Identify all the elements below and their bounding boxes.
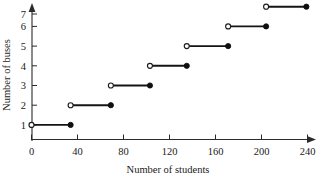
y-axis-ticks [32, 14, 37, 125]
x-tick-label-160: 160 [208, 146, 224, 157]
x-tick-label-240: 240 [300, 146, 316, 157]
step-series-group [29, 4, 309, 127]
step-function-figure: 1 2 3 4 5 6 7 0 [0, 0, 320, 178]
open-endpoint-7 [264, 4, 269, 9]
y-tick-label-2: 2 [21, 100, 26, 111]
x-tick-label-120: 120 [162, 146, 178, 157]
closed-endpoint-3 [147, 83, 152, 88]
chart-canvas: 1 2 3 4 5 6 7 0 [0, 0, 320, 178]
x-tick-label-200: 200 [254, 146, 270, 157]
y-tick-label-3: 3 [21, 80, 26, 91]
open-endpoint-1 [29, 122, 34, 127]
y-tick-labels: 1 2 3 4 5 6 7 [21, 9, 27, 131]
closed-endpoint-2 [108, 103, 113, 108]
x-axis-ticks [32, 135, 308, 140]
y-tick-label-4: 4 [21, 61, 27, 72]
open-endpoint-2 [68, 103, 73, 108]
closed-endpoint-1 [68, 122, 73, 127]
closed-endpoint-6 [264, 24, 269, 29]
y-axis-arrow-icon [29, 3, 36, 12]
closed-endpoint-5 [226, 44, 231, 49]
y-tick-label-7: 7 [21, 9, 26, 20]
closed-endpoint-4 [184, 63, 189, 68]
x-axis-arrow-icon [307, 136, 316, 143]
open-endpoint-6 [226, 24, 231, 29]
y-tick-label-6: 6 [21, 21, 26, 32]
open-endpoint-3 [108, 83, 113, 88]
x-tick-label-0: 0 [29, 146, 34, 157]
y-axis-group: 1 2 3 4 5 6 7 [21, 3, 37, 141]
x-tick-labels: 0 40 80 120 160 200 240 [29, 146, 316, 157]
open-endpoint-4 [147, 63, 152, 68]
y-tick-label-5: 5 [21, 41, 26, 52]
y-axis-title: Number of buses [1, 39, 12, 111]
x-tick-label-80: 80 [118, 146, 129, 157]
x-axis-group: 0 40 80 120 160 200 240 [29, 135, 316, 158]
x-axis-title: Number of students [127, 164, 210, 175]
closed-endpoint-7 [304, 4, 309, 9]
x-tick-label-40: 40 [72, 146, 83, 157]
y-tick-label-1: 1 [21, 120, 26, 131]
open-endpoint-5 [184, 44, 189, 49]
